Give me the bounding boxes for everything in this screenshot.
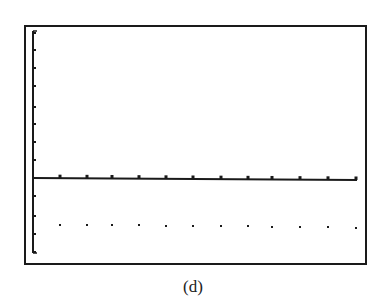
x-tick	[138, 175, 141, 179]
data-point	[355, 227, 357, 229]
x-tick	[247, 176, 250, 180]
data-point	[247, 225, 249, 227]
data-point	[111, 224, 113, 226]
x-tick	[111, 175, 114, 179]
x-axis	[33, 178, 357, 180]
data-point	[192, 225, 194, 227]
data-point	[165, 225, 167, 227]
data-point	[138, 224, 140, 226]
data-point	[59, 224, 61, 226]
x-tick	[59, 175, 62, 179]
x-tick	[192, 175, 195, 179]
x-tick	[165, 175, 168, 179]
data-point	[220, 225, 222, 227]
x-tick	[355, 176, 358, 180]
figure-caption: (d)	[0, 277, 386, 297]
x-tick	[327, 176, 330, 180]
x-tick	[86, 175, 89, 179]
data-point	[327, 226, 329, 228]
scatter-plot	[0, 0, 386, 307]
data-point	[271, 226, 273, 228]
x-tick	[271, 176, 274, 180]
x-tick	[220, 176, 223, 180]
data-point	[299, 226, 301, 228]
x-tick	[299, 176, 302, 180]
data-point	[86, 224, 88, 226]
